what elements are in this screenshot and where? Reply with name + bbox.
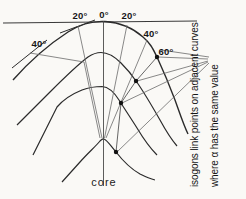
caption-line-2: where α has the same value — [208, 64, 221, 187]
isogon-point-markers — [114, 55, 159, 154]
angle-label-top-0: 0° — [99, 9, 108, 20]
isogon-point-marker-3 — [119, 101, 123, 105]
isogon-point-marker-4 — [114, 150, 118, 154]
second-fold-curve — [17, 53, 177, 147]
isogon-left-40-link-line — [30, 53, 84, 62]
fold-isogon-diagram: 20° 0° 20° 40° 40° 60° core isogons link… — [0, 0, 246, 199]
angle-label-top-right-20: 20° — [122, 10, 137, 21]
angle-label-right-60: 60° — [159, 46, 174, 57]
angle-label-right-40: 40° — [144, 28, 159, 39]
caption-line-1: isogons link points on adjacent curves — [188, 22, 201, 187]
core-label: core — [91, 176, 116, 188]
angle-label-left-40: 40° — [32, 38, 47, 49]
isogon-right-20-line — [105, 25, 128, 138]
isogon-left-40-line — [84, 62, 100, 138]
third-fold-curve — [33, 87, 157, 156]
angle-label-top-left-20: 20° — [73, 10, 88, 21]
isogon-point-marker-2 — [134, 79, 138, 83]
isogon-left-20-line — [78, 26, 102, 138]
